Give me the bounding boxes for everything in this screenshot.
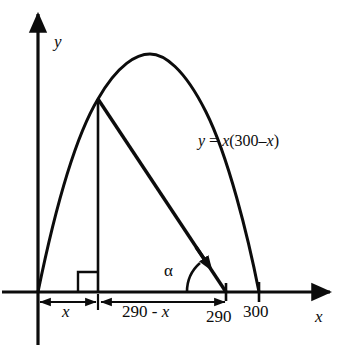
equation-equals: = bbox=[205, 132, 222, 149]
parabola-diagram-svg bbox=[0, 0, 342, 347]
dim-x-text: x bbox=[162, 302, 170, 321]
equation-rhs-x2: x bbox=[267, 132, 274, 149]
dimension-label-x: x bbox=[62, 303, 70, 320]
x-axis-label: x bbox=[315, 308, 323, 325]
angle-label-alpha: α bbox=[164, 262, 173, 279]
dim-290-text: 290 - bbox=[122, 302, 162, 321]
tick-label-290: 290 bbox=[206, 308, 232, 325]
equation-rhs-close: ) bbox=[274, 132, 279, 149]
figure-container: y x x 290 - x 290 300 α y = x(300–x) bbox=[0, 0, 342, 347]
right-angle-marker bbox=[78, 272, 98, 291]
equation-rhs-rest: (300– bbox=[229, 132, 266, 149]
angle-alpha-arc bbox=[187, 263, 200, 292]
y-axis-label: y bbox=[54, 33, 62, 50]
curve-equation-label: y = x(300–x) bbox=[198, 133, 279, 149]
tick-label-300: 300 bbox=[243, 303, 269, 320]
dimension-label-290-minus-x: 290 - x bbox=[122, 303, 169, 320]
